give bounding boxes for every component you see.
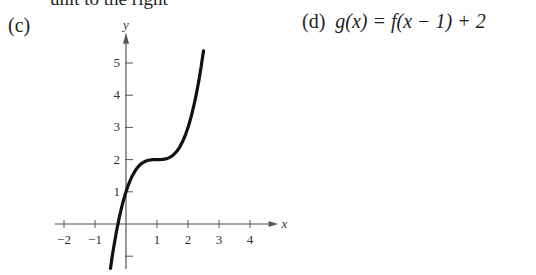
y-axis-label: y [121,17,129,32]
x-tick-label: 3 [216,232,223,247]
x-tick-label: −1 [88,232,102,247]
y-tick-label: 3 [114,119,121,134]
x-axis-label: x [280,216,287,231]
y-axis-arrow-icon [123,32,129,43]
y-tick-label: 5 [114,55,121,70]
y-tick-label: 2 [114,152,121,167]
graph: xy−2−1123412345 [0,0,536,275]
x-tick-label: −2 [57,232,71,247]
x-tick-label: 4 [247,232,254,247]
y-tick-label: 1 [114,184,121,199]
y-tick-label: 4 [114,87,121,102]
x-tick-label: 1 [154,232,161,247]
x-axis-arrow-icon [269,221,278,227]
x-tick-label: 2 [185,232,192,247]
